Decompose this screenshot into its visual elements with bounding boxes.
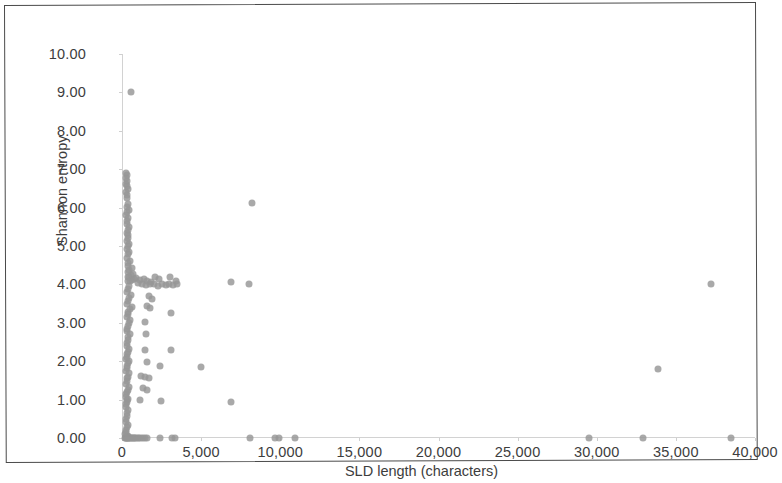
data-point <box>146 305 153 312</box>
data-point <box>245 281 252 288</box>
data-point <box>149 295 156 302</box>
y-axis-tick-label: 4.00 <box>57 276 86 292</box>
data-point <box>292 435 299 442</box>
x-axis-tick-label: 20,000 <box>416 444 462 460</box>
y-axis-tick-label: 7.00 <box>57 161 86 177</box>
data-point <box>585 435 592 442</box>
plot-area <box>122 54 755 438</box>
data-point <box>143 387 150 394</box>
x-axis-tick-mark <box>676 438 677 441</box>
data-point <box>228 398 235 405</box>
data-point <box>228 279 235 286</box>
x-axis-tick-label: 10,000 <box>257 444 303 460</box>
x-axis-tick-mark <box>201 438 202 441</box>
data-point <box>142 346 149 353</box>
data-point <box>174 280 181 287</box>
x-axis-tick-label: 30,000 <box>574 444 620 460</box>
x-axis-tick-label: 40,000 <box>732 444 778 460</box>
y-axis-tick-label: 10.00 <box>49 46 86 62</box>
x-axis-tick-mark <box>755 438 756 441</box>
data-point <box>157 397 164 404</box>
data-point <box>172 435 179 442</box>
data-point <box>144 435 151 442</box>
data-point <box>707 280 714 287</box>
x-axis-tick-mark <box>597 438 598 441</box>
y-axis-tick-label: 9.00 <box>57 84 86 100</box>
y-axis-tick-mark <box>119 54 122 55</box>
y-axis-tick-label: 6.00 <box>57 200 86 216</box>
y-axis-tick-mark <box>119 92 122 93</box>
y-axis-tick-label: 1.00 <box>57 392 86 408</box>
y-axis-tick-mark <box>119 284 122 285</box>
y-axis-tick-mark <box>119 400 122 401</box>
data-point <box>145 375 152 382</box>
x-axis-tick-mark <box>518 438 519 441</box>
x-axis-tick-label: 35,000 <box>653 444 699 460</box>
scatter-plot-figure: Shannon entropy 0.001.002.003.004.005.00… <box>40 16 782 483</box>
data-point <box>156 435 163 442</box>
y-axis-tick-mark <box>119 323 122 324</box>
data-point <box>728 435 735 442</box>
data-point <box>168 347 175 354</box>
data-point <box>137 396 144 403</box>
y-axis-tick-mark <box>119 208 122 209</box>
x-axis-tick-label: 15,000 <box>337 444 383 460</box>
data-point <box>655 365 662 372</box>
x-axis-tick-mark <box>439 438 440 441</box>
y-axis-tick-label: 0.00 <box>57 430 86 446</box>
data-point <box>168 310 175 317</box>
y-axis-tick-label: 3.00 <box>57 315 86 331</box>
x-axis-tick-mark <box>359 438 360 441</box>
y-axis-tick-label: 5.00 <box>57 238 86 254</box>
plot-background <box>122 54 755 438</box>
data-point <box>144 358 151 365</box>
x-axis-tick-label: 25,000 <box>495 444 541 460</box>
data-point <box>142 330 149 337</box>
data-point <box>275 435 282 442</box>
x-axis-tick-label: 5,000 <box>182 444 219 460</box>
data-point <box>639 435 646 442</box>
y-axis-tick-mark <box>119 169 122 170</box>
data-point <box>247 435 254 442</box>
data-point <box>156 362 163 369</box>
data-point <box>141 319 148 326</box>
y-axis-tick-mark <box>119 361 122 362</box>
y-axis-tick-mark <box>119 246 122 247</box>
data-point <box>248 199 255 206</box>
y-axis-tick-label: 8.00 <box>57 123 86 139</box>
y-axis-tick-label: 2.00 <box>57 353 86 369</box>
y-axis-tick-mark <box>119 131 122 132</box>
data-point <box>128 89 135 96</box>
data-point <box>198 363 205 370</box>
y-axis-title: Shannon entropy <box>54 136 70 246</box>
x-axis-tick-label: 0 <box>118 444 126 460</box>
x-axis-title: SLD length (characters) <box>40 463 782 479</box>
